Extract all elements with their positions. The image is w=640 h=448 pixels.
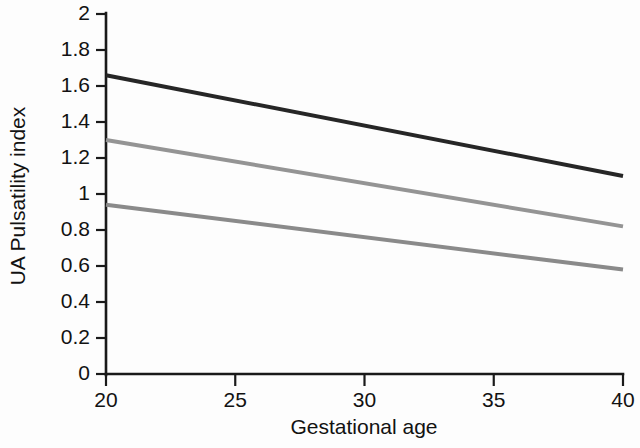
y-tick-label: 0.6	[61, 253, 90, 276]
y-axis-ticks: 00.20.40.60.811.21.41.61.82	[61, 1, 106, 384]
y-tick-label: 1.2	[61, 145, 90, 168]
series-lines	[106, 75, 623, 269]
x-tick-label: 30	[353, 388, 376, 411]
x-tick-label: 20	[94, 388, 117, 411]
y-tick-label: 1.8	[61, 37, 90, 60]
line-chart: 00.20.40.60.811.21.41.61.82 2025303540 G…	[0, 0, 640, 448]
y-tick-label: 0	[78, 361, 90, 384]
series-upper-curve	[106, 75, 623, 176]
y-tick-label: 0.8	[61, 217, 90, 240]
y-tick-label: 1	[78, 181, 90, 204]
x-tick-label: 25	[224, 388, 247, 411]
y-tick-label: 0.2	[61, 325, 90, 348]
y-axis-title: UA Pulsatility index	[6, 106, 29, 285]
y-tick-label: 2	[78, 1, 90, 24]
x-tick-label: 35	[482, 388, 505, 411]
y-tick-label: 0.4	[61, 289, 91, 312]
y-tick-label: 1.4	[61, 109, 91, 132]
y-tick-label: 1.6	[61, 73, 90, 96]
x-tick-label: 40	[611, 388, 634, 411]
x-axis-ticks: 2025303540	[94, 374, 634, 411]
chart-figure: 00.20.40.60.811.21.41.61.82 2025303540 G…	[0, 0, 640, 448]
x-axis-title: Gestational age	[290, 415, 437, 438]
